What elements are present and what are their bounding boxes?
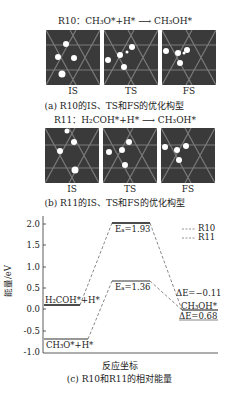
y-axis-label: 能量/eV [1, 265, 13, 297]
x-axis-label: 反应坐标 [5, 359, 229, 372]
label-fs: CH₃OH* [181, 301, 217, 311]
label-de-r10: ΔE=0.68 [179, 311, 217, 321]
ytick: 0.0 [10, 304, 40, 314]
ytick: 1.5 [10, 240, 40, 250]
energy-profile-chart [0, 0, 229, 397]
label-r10-is: CH₃O*+H* [46, 340, 93, 350]
label-ea-r11: Eₐ=1.93 [115, 224, 151, 234]
ytick: 2.0 [10, 219, 40, 229]
legend-r11: R11 [198, 232, 215, 242]
ytick: -1.0 [10, 347, 40, 357]
ytick: -0.5 [10, 326, 40, 336]
label-ea-r10: Eₐ=1.36 [115, 282, 151, 292]
label-de-r11: ΔE=−0.11 [176, 288, 222, 298]
label-r11-is: H₂COH*+H* [45, 295, 100, 305]
caption-c: (c) R10和R11的相对能量 [5, 372, 229, 385]
ytick: 1.0 [10, 262, 40, 272]
ytick: 0.5 [10, 283, 40, 293]
